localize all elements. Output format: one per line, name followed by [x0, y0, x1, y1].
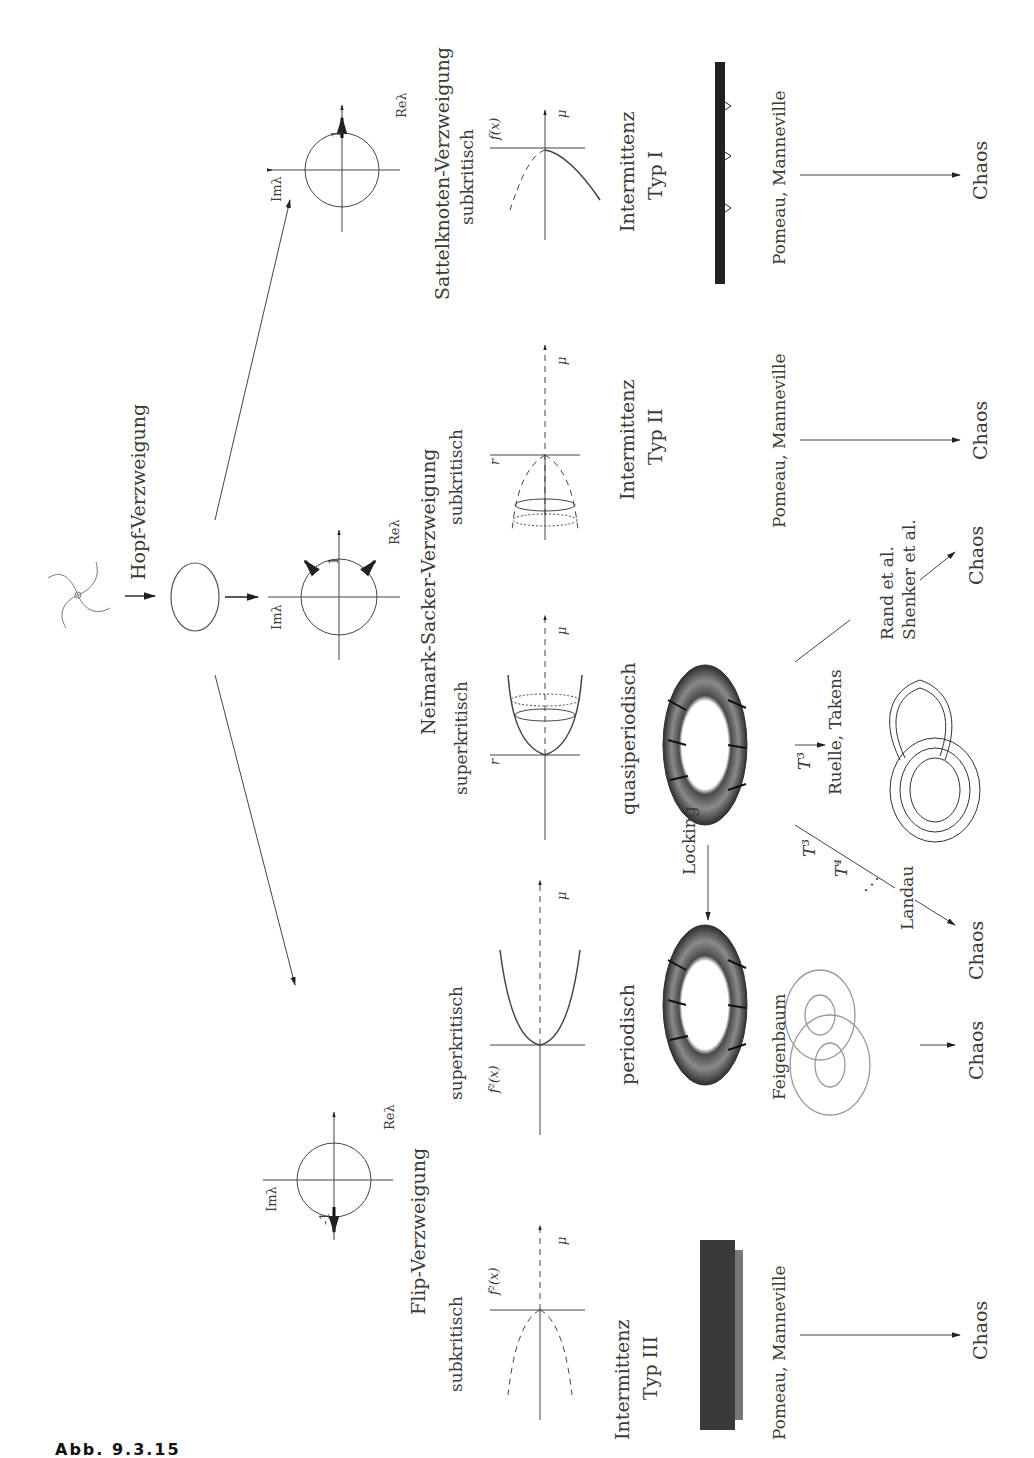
branch-to-saddle [215, 200, 290, 520]
saddle-xaxis-label: μ [555, 110, 570, 118]
saddle-chaos: Chaos [970, 141, 992, 200]
feigenbaum-label: Feigenbaum [770, 994, 790, 1100]
ruelle-takens-label: Ruelle, Takens [826, 669, 846, 795]
flip-sub-chaos: Chaos [970, 1301, 992, 1360]
flip-sub-xaxis: μ [555, 1237, 570, 1245]
neimark-sub-type-line2: Typ II [645, 408, 667, 465]
landau-dots: ⋱ [862, 876, 882, 893]
landau-label: Landau [898, 866, 918, 930]
t3-ruelle-label: T³ [795, 752, 815, 770]
locking-label: Locking [680, 806, 700, 875]
flip-super-label: superkritisch [447, 986, 467, 1100]
flip-sub-type-line2: Typ III [640, 1336, 662, 1400]
im-axis-label-flip: Imλ [265, 1186, 280, 1212]
branch-to-flip [215, 675, 295, 985]
flip-super-yaxis: f²(x) [487, 1066, 502, 1094]
unit-circle-saddle [270, 105, 400, 232]
neimark-sub-plot [490, 345, 580, 540]
saddle-bifurcation-plot [490, 110, 600, 240]
rand-line [795, 620, 850, 662]
intermittency-type1-signal [715, 62, 731, 284]
saddle-type-line1: Intermittenz [617, 111, 639, 232]
neimark-super-plot [490, 615, 582, 840]
hopf-label: Hopf-Verzweigung [128, 404, 150, 580]
saddle-type-line2: Typ I [645, 151, 667, 200]
torus-quasiperiodic [663, 665, 747, 825]
re-axis-label-flip: Reλ [383, 1104, 398, 1130]
neimark-super-xaxis: μ [555, 627, 570, 635]
unit-label-neimark: 1 [327, 557, 342, 565]
im-axis-label-saddle: Imλ [270, 176, 285, 202]
saddle-sub-label: subkritisch [458, 129, 478, 225]
minus-unit-label-flip: -1 [318, 1212, 333, 1225]
spiral-focus-icon [48, 562, 110, 628]
flip-sub-plot [490, 1225, 585, 1420]
feigenbaum-chaos: Chaos [966, 1021, 988, 1080]
re-axis-label-neimark: Reλ [388, 519, 403, 545]
neimark-sub-type-line1: Intermittenz [617, 379, 639, 500]
figure-caption: Abb. 9.3.15 [55, 1440, 181, 1458]
neimark-sub-xaxis: μ [555, 357, 570, 365]
flip-sub-authors: Pomeau, Manneville [770, 1265, 790, 1440]
torus-periodic [663, 925, 747, 1085]
rand-label: Rand et al. [878, 546, 898, 640]
landau-chaos: Chaos [966, 921, 988, 980]
neimark-sub-authors: Pomeau, Manneville [770, 353, 790, 528]
neimark-sub-yaxis: r [488, 459, 503, 465]
re-axis-label-saddle: Reλ [395, 92, 410, 118]
flip-sub-label: subkritisch [447, 1296, 467, 1392]
rand-chaos-arrow [920, 552, 955, 580]
landau-chaos-arrow [915, 900, 955, 925]
intermittency-type3-signal [700, 1240, 743, 1430]
neimark-sub-chaos: Chaos [970, 401, 992, 460]
flip-super-plot [490, 880, 585, 1135]
diagram-drawing [0, 0, 1034, 1458]
flip-sub-yaxis: f²(x) [487, 1268, 502, 1296]
saddle-yaxis-label: f(x) [488, 118, 503, 140]
neimark-sub-label: subkritisch [447, 429, 467, 525]
flip-state: periodisch [617, 984, 639, 1085]
shenker-label: Shenker et al. [900, 519, 920, 640]
neimark-state: quasiperiodisch [618, 663, 640, 815]
flip-title: Flip-Verzweigung [408, 1148, 430, 1315]
neimark-super-yaxis: r [488, 759, 503, 765]
period-doubling-orbit-icon [785, 970, 870, 1115]
strange-attractor-icon [890, 680, 980, 842]
limit-cycle-icon [171, 563, 258, 631]
rand-chaos: Chaos [966, 526, 988, 585]
saddle-title: Sattelknoten-Verzweigung [432, 47, 454, 300]
t3-landau-label: T³ [800, 839, 820, 857]
unit-circle-neimark [268, 530, 400, 660]
neimark-title: Neĭmark-Sacker-Verzweigung [418, 448, 440, 735]
flip-super-xaxis: μ [555, 892, 570, 900]
saddle-authors: Pomeau, Manneville [770, 90, 790, 265]
im-axis-label-neimark: Imλ [270, 604, 285, 630]
t4-landau-label: T⁴ [832, 859, 852, 877]
neimark-super-label: superkritisch [452, 681, 472, 795]
flip-sub-type-line1: Intermittenz [612, 1319, 634, 1440]
unit-label-saddle: 1 [330, 130, 345, 138]
